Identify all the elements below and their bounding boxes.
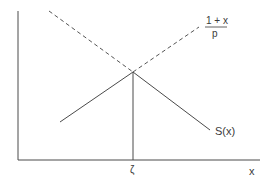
label-zeta: ζ — [130, 164, 135, 176]
dashed-line-decreasing — [49, 11, 133, 72]
curve-s-of-x — [60, 72, 210, 130]
diagram-canvas: 1 + x p S(x) ζ x — [0, 0, 272, 183]
dashed-line-one-plus-x-over-p — [133, 27, 199, 72]
label-s-of-x: S(x) — [215, 125, 235, 137]
label-p: p — [212, 28, 218, 39]
label-x-axis: x — [249, 165, 255, 177]
label-one-plus-x: 1 + x — [206, 15, 228, 26]
